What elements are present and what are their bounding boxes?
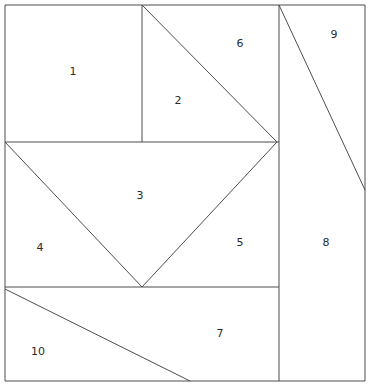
- region-label-6: 6: [237, 37, 244, 50]
- geometric-partition-figure: 12345678910: [0, 0, 370, 390]
- region-label-5: 5: [237, 236, 244, 249]
- diagram-container: 12345678910: [0, 0, 370, 390]
- region-faces-group: [5, 5, 365, 381]
- region-label-3: 3: [137, 189, 144, 202]
- region-label-2: 2: [175, 94, 182, 107]
- region-label-9: 9: [331, 28, 338, 41]
- region-label-7: 7: [217, 327, 224, 340]
- region-label-1: 1: [70, 65, 77, 78]
- region-label-4: 4: [37, 241, 44, 254]
- region-label-8: 8: [323, 236, 330, 249]
- region-label-10: 10: [31, 345, 45, 358]
